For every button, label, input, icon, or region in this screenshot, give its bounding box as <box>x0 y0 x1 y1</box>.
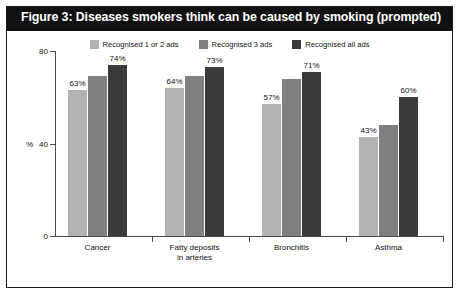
chart-legend: Recognised 1 or 2 adsRecognised 3 adsRec… <box>7 40 452 49</box>
bar-value-label: 60% <box>400 86 416 95</box>
y-tick-mark <box>50 51 56 52</box>
bar <box>282 79 301 236</box>
y-axis-label: % <box>26 139 33 148</box>
bar-value-label: 63% <box>69 79 85 88</box>
bar: 73% <box>205 67 224 236</box>
legend-item: Recognised 1 or 2 ads <box>90 40 179 49</box>
legend-item: Recognised 3 ads <box>199 40 273 49</box>
bar: 74% <box>108 65 127 236</box>
x-tick-mark <box>346 236 347 242</box>
legend-swatch-icon <box>292 40 301 49</box>
bar <box>88 76 107 236</box>
bar <box>185 76 204 236</box>
plot-area: % 80400 63%74%64%73%57%71%43%60% CancerF… <box>55 51 443 256</box>
y-tick-label: 40 <box>39 139 48 148</box>
legend-label: Recognised all ads <box>305 40 369 49</box>
y-tick-mark <box>50 144 56 145</box>
legend-item: Recognised all ads <box>292 40 369 49</box>
x-tick-mark <box>443 236 444 242</box>
category-label-line: Asthma <box>375 243 402 253</box>
category-label: Asthma <box>375 243 402 253</box>
bar: 71% <box>302 72 321 236</box>
x-tick-mark <box>249 236 250 242</box>
category-label-line: Bronchitis <box>274 243 309 253</box>
bar-value-label: 74% <box>109 54 125 63</box>
legend-label: Recognised 1 or 2 ads <box>103 40 179 49</box>
bar: 43% <box>359 137 378 236</box>
category-label-line: in arteries <box>170 253 220 263</box>
bar-value-label: 71% <box>303 61 319 70</box>
category-label-line: Cancer <box>85 243 111 253</box>
chart-area: Recognised 1 or 2 adsRecognised 3 adsRec… <box>7 31 452 287</box>
figure-title: Figure 3: Diseases smokers think can be … <box>21 10 441 24</box>
figure-container: Figure 3: Diseases smokers think can be … <box>6 6 453 288</box>
bar <box>379 125 398 236</box>
bar: 60% <box>399 97 418 236</box>
y-tick-mark <box>50 236 56 237</box>
bar: 64% <box>165 88 184 236</box>
category-label: Bronchitis <box>274 243 309 253</box>
bar-value-label: 64% <box>166 77 182 86</box>
category-label-line: Fatty deposits <box>170 243 220 253</box>
legend-swatch-icon <box>90 40 99 49</box>
category-label: Cancer <box>85 243 111 253</box>
bar-value-label: 57% <box>263 93 279 102</box>
legend-label: Recognised 3 ads <box>212 40 273 49</box>
y-tick-label: 0 <box>44 232 48 241</box>
figure-title-bar: Figure 3: Diseases smokers think can be … <box>7 7 452 31</box>
bar: 63% <box>68 90 87 236</box>
legend-swatch-icon <box>199 40 208 49</box>
bar: 57% <box>262 104 281 236</box>
y-tick-label: 80 <box>39 47 48 56</box>
x-tick-mark <box>152 236 153 242</box>
bar-value-label: 73% <box>206 56 222 65</box>
bar-value-label: 43% <box>360 126 376 135</box>
category-label: Fatty depositsin arteries <box>170 243 220 262</box>
